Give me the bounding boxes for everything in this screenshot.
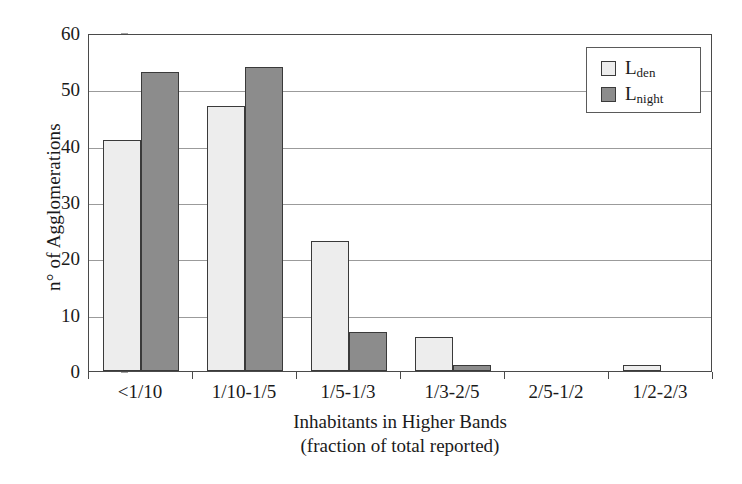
y-tick-label: 50 [61, 79, 80, 101]
x-tick-label: 1/5-1/3 [321, 381, 376, 403]
bar [311, 241, 349, 371]
legend-swatch-lnight [601, 87, 616, 102]
y-tick-label: 10 [61, 305, 80, 327]
x-tick-label: 1/10-1/5 [212, 381, 276, 403]
legend-label-lnight: Lnight [625, 83, 663, 105]
bar [207, 106, 245, 371]
x-tick-mark [88, 372, 89, 379]
y-tick-label: 30 [61, 192, 80, 214]
y-tick-label: 40 [61, 136, 80, 158]
x-tick-mark [296, 372, 297, 379]
legend-item-lnight[interactable]: Lnight [601, 81, 700, 107]
x-tick-label: 1/2-2/3 [633, 381, 688, 403]
x-tick-mark [192, 372, 193, 379]
legend-label-lden: Lden [625, 57, 655, 79]
bar [245, 67, 283, 371]
bar [141, 72, 179, 371]
x-tick-mark [504, 372, 505, 379]
bar [453, 365, 491, 371]
y-axis-ticks: 0102030405060 [40, 34, 80, 372]
y-tick-label: 20 [61, 248, 80, 270]
legend-item-lden[interactable]: Lden [601, 55, 700, 81]
bar [415, 337, 453, 371]
legend-swatch-lden [601, 61, 616, 76]
bar [103, 140, 141, 371]
bar [349, 332, 387, 371]
x-axis-title-line2: (fraction of total reported) [88, 434, 712, 458]
x-axis-title: Inhabitants in Higher Bands (fraction of… [88, 410, 712, 458]
x-tick-label: 1/3-2/5 [425, 381, 480, 403]
bar [623, 365, 661, 371]
x-axis-title-line1: Inhabitants in Higher Bands [293, 411, 507, 432]
legend: Lden Lnight [586, 47, 701, 113]
y-tick-label: 0 [71, 361, 81, 383]
x-tick-label: 2/5-1/2 [529, 381, 584, 403]
y-tick-label: 60 [61, 23, 80, 45]
bar-chart: n° of Agglomerations 0102030405060 <1/10… [0, 0, 742, 484]
x-tick-label: <1/10 [118, 381, 163, 403]
x-tick-mark [712, 372, 713, 379]
x-tick-mark [608, 372, 609, 379]
x-tick-mark [400, 372, 401, 379]
